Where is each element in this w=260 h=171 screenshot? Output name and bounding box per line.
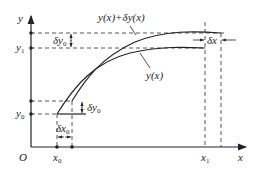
dot-y-perturbed-start	[29, 99, 33, 103]
dot-x0	[55, 145, 59, 149]
base-curve	[57, 47, 205, 114]
y1-label: y1	[15, 41, 25, 55]
perturbed-curve	[72, 32, 221, 101]
labels: y x O y1 y0 x0 x1 δy0 δy0 δx0 δx y(x)+δy…	[15, 11, 243, 165]
perturbed-curve-label: y(x)+δy(x)	[97, 11, 145, 24]
y-axis-label: y	[17, 12, 23, 24]
dot-y0	[29, 112, 33, 116]
x1-label: x1	[200, 151, 210, 165]
dx0-label: δx0	[56, 122, 70, 136]
dot-y1	[29, 46, 33, 50]
variation-diagram: y x O y1 y0 x0 x1 δy0 δy0 δx0 δx y(x)+δy…	[0, 0, 260, 171]
base-label-leader	[140, 53, 150, 68]
dot-x0-dx	[70, 145, 74, 149]
dx1-label: δx	[207, 34, 217, 46]
perturbed-label-leader	[130, 26, 136, 35]
origin-label: O	[19, 151, 27, 163]
x-axis-label: x	[237, 151, 243, 163]
y0-label: y0	[15, 107, 25, 121]
dy0-top-label: δy0	[53, 34, 67, 48]
dy0-bottom-label: δy0	[87, 101, 101, 115]
curves	[57, 32, 221, 114]
x0-label: x0	[52, 151, 62, 165]
base-curve-label: y(x)	[145, 69, 163, 82]
diagram-canvas: y x O y1 y0 x0 x1 δy0 δy0 δx0 δx y(x)+δy…	[0, 0, 260, 171]
dot-y-top	[29, 31, 33, 35]
